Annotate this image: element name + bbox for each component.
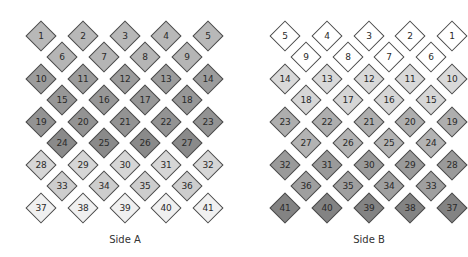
seat-number: 32 xyxy=(270,158,300,172)
seat-number: 10 xyxy=(26,72,56,86)
seat-number: 4 xyxy=(151,29,181,43)
seat-number: 16 xyxy=(89,93,119,107)
seat-number: 40 xyxy=(312,201,342,215)
seat-number: 35 xyxy=(130,179,160,193)
seat-number: 18 xyxy=(172,93,202,107)
seat-number: 1 xyxy=(437,29,467,43)
seat-number: 22 xyxy=(151,115,181,129)
seat-number: 11 xyxy=(395,72,425,86)
seat-number: 29 xyxy=(395,158,425,172)
seat-number: 23 xyxy=(193,115,223,129)
seat-number: 3 xyxy=(354,29,384,43)
seat-number: 25 xyxy=(374,136,404,150)
seat-number: 5 xyxy=(270,29,300,43)
seat-number: 31 xyxy=(151,158,181,172)
seat-number: 30 xyxy=(354,158,384,172)
seat-number: 41 xyxy=(270,201,300,215)
side-a-caption: Side A xyxy=(75,234,175,245)
seat-number: 24 xyxy=(416,136,446,150)
seat-number: 6 xyxy=(47,50,77,64)
seat-number: 20 xyxy=(68,115,98,129)
seat-number: 7 xyxy=(374,50,404,64)
seat-number: 30 xyxy=(110,158,140,172)
seat-number: 17 xyxy=(130,93,160,107)
seat-number: 10 xyxy=(437,72,467,86)
seat-number: 32 xyxy=(193,158,223,172)
seat-number: 40 xyxy=(151,201,181,215)
seat-number: 18 xyxy=(291,93,321,107)
seat-number: 37 xyxy=(26,201,56,215)
seat-number: 4 xyxy=(312,29,342,43)
seat-number: 27 xyxy=(172,136,202,150)
seat-number: 12 xyxy=(354,72,384,86)
seat-number: 13 xyxy=(151,72,181,86)
seat-number: 25 xyxy=(89,136,119,150)
seat-number: 21 xyxy=(110,115,140,129)
seat-number: 38 xyxy=(395,201,425,215)
seat-number: 26 xyxy=(333,136,363,150)
seat-number: 11 xyxy=(68,72,98,86)
seat-number: 8 xyxy=(130,50,160,64)
seat-number: 2 xyxy=(395,29,425,43)
seat-number: 26 xyxy=(130,136,160,150)
seat-number: 24 xyxy=(47,136,77,150)
seat-number: 14 xyxy=(193,72,223,86)
seat-number: 7 xyxy=(89,50,119,64)
seat-number: 22 xyxy=(312,115,342,129)
seat-number: 35 xyxy=(333,179,363,193)
seat-number: 9 xyxy=(291,50,321,64)
seat-number: 41 xyxy=(193,201,223,215)
seat-number: 34 xyxy=(89,179,119,193)
seat-number: 29 xyxy=(68,158,98,172)
seat-number: 27 xyxy=(291,136,321,150)
seat-number: 2 xyxy=(68,29,98,43)
seat-number: 21 xyxy=(354,115,384,129)
seat-number: 39 xyxy=(110,201,140,215)
seat-number: 15 xyxy=(47,93,77,107)
seat-number: 33 xyxy=(47,179,77,193)
seat-number: 15 xyxy=(416,93,446,107)
seat-number: 14 xyxy=(270,72,300,86)
seat-number: 9 xyxy=(172,50,202,64)
seat-number: 28 xyxy=(26,158,56,172)
seat-number: 34 xyxy=(374,179,404,193)
seat-number: 12 xyxy=(110,72,140,86)
seat-number: 33 xyxy=(416,179,446,193)
seat-number: 31 xyxy=(312,158,342,172)
seat-number: 37 xyxy=(437,201,467,215)
side-b-caption: Side B xyxy=(319,234,419,245)
seat-number: 36 xyxy=(291,179,321,193)
seat-number: 13 xyxy=(312,72,342,86)
seat-number: 5 xyxy=(193,29,223,43)
seat-number: 19 xyxy=(26,115,56,129)
seat-number: 17 xyxy=(333,93,363,107)
seat-number: 23 xyxy=(270,115,300,129)
seat-number: 1 xyxy=(26,29,56,43)
seat-number: 28 xyxy=(437,158,467,172)
seat-number: 3 xyxy=(110,29,140,43)
seat-number: 6 xyxy=(416,50,446,64)
seat-number: 20 xyxy=(395,115,425,129)
seat-number: 38 xyxy=(68,201,98,215)
seat-number: 8 xyxy=(333,50,363,64)
seat-number: 39 xyxy=(354,201,384,215)
seat-number: 36 xyxy=(172,179,202,193)
seat-number: 19 xyxy=(437,115,467,129)
seat-number: 16 xyxy=(374,93,404,107)
